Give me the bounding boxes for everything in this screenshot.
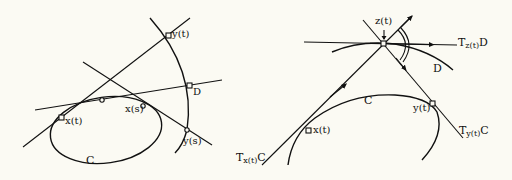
label-tangent-zd: Tz(t)D: [458, 37, 488, 50]
point-x-t: [59, 115, 64, 120]
line-zt-yt: [363, 20, 463, 138]
label-y-t: y(t): [172, 29, 189, 39]
label-d-right: D: [433, 63, 442, 74]
point-y-t-right: [430, 101, 435, 106]
label-tangent-xc: Tx(t)C: [236, 152, 266, 165]
label-c-right: C: [364, 95, 372, 106]
arrow-xt-line: [330, 85, 345, 97]
label-c: C: [86, 155, 94, 166]
point-z-t: [381, 41, 386, 46]
label-tangent-xc-tail: C: [257, 151, 265, 164]
point-d: [187, 83, 192, 88]
label-x-t-right: x(t): [313, 125, 330, 135]
label-tangent-xc-sub: x(t): [243, 156, 257, 165]
label-tangent-yc-tail: C: [480, 124, 488, 137]
label-tangent-zd-tail: D: [479, 36, 488, 49]
label-tangent-zd-sub: z(t): [465, 41, 479, 50]
point-y-s: [185, 128, 189, 132]
curve-c-ellipse: [46, 90, 166, 171]
point-y-t: [166, 33, 171, 38]
label-z-t: z(t): [375, 16, 392, 26]
line-xt-zt: [262, 16, 412, 165]
right-figure: [262, 16, 463, 165]
label-tangent-yc: Ty(t)C: [459, 125, 489, 138]
line-xs-ys: [83, 62, 212, 145]
line-xt-yt: [23, 18, 190, 147]
point-top: [100, 98, 104, 102]
label-x-t: x(t): [65, 116, 82, 126]
arrow-tangent-zd: [370, 43, 432, 44]
arrow-xt-line-top: [400, 17, 411, 28]
label-d: D: [193, 87, 201, 97]
point-x-t-right: [306, 128, 311, 133]
label-tangent-yc-sub: y(t): [466, 129, 480, 138]
label-x-s: x(s): [125, 104, 144, 114]
diagram-canvas: y(t) D x(s) x(t) y(s) C z(t) Tz(t)D D C …: [0, 0, 512, 180]
pointer-zt-head: [382, 36, 387, 40]
label-y-s: y(s): [183, 136, 202, 146]
label-y-t-right: y(t): [413, 103, 430, 113]
